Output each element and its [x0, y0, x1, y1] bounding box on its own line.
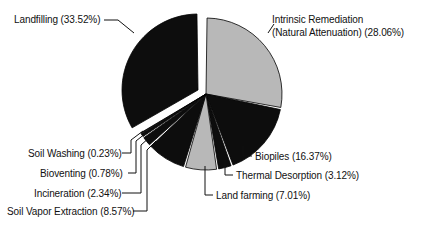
slice-label-bioventing-text: Bioventing (0.78%) — [40, 168, 123, 181]
slice-label-landfilling-text: Landfilling (33.52%) — [14, 14, 100, 27]
slice-label-soil-vapor-extraction: Soil Vapor Extraction (8.57%) — [7, 206, 135, 219]
leader-line-landfilling — [104, 20, 134, 33]
slice-label-landfilling: Landfilling (33.52%) — [14, 14, 100, 27]
pie-slice-intrinsic-remediation-natural-attenuation[interactable] — [206, 18, 282, 107]
slice-label-soil-washing-text: Soil Washing (0.23%) — [28, 148, 122, 161]
slice-label-land-farming: Land farming (7.01%) — [216, 190, 310, 203]
slice-label-intrinsic-remediation: Intrinsic Remediation (Natural Attenuati… — [272, 14, 404, 39]
slice-label-soil-vapor-extraction-text: Soil Vapor Extraction (8.57%) — [7, 206, 135, 219]
slice-label-bioventing: Bioventing (0.78%) — [40, 168, 123, 181]
slice-label-intrinsic-remediation-line1: Intrinsic Remediation — [272, 14, 404, 27]
pie-slices-group — [122, 14, 282, 170]
leader-line-soil-washing — [122, 131, 143, 153]
slice-label-incineration: Incineration (2.34%) — [34, 188, 122, 201]
slice-label-biopiles-text: Biopiles (16.37%) — [255, 151, 332, 164]
slice-label-biopiles: Biopiles (16.37%) — [255, 151, 332, 164]
slice-label-land-farming-text: Land farming (7.01%) — [216, 190, 310, 203]
slice-label-intrinsic-remediation-line2: (Natural Attenuation) (28.06%) — [272, 27, 404, 40]
pie-chart-figure: Landfilling (33.52%) Intrinsic Remediati… — [0, 0, 439, 226]
slice-label-thermal-desorption: Thermal Desorption (3.12%) — [236, 170, 359, 183]
slice-label-thermal-desorption-text: Thermal Desorption (3.12%) — [236, 170, 359, 183]
slice-label-incineration-text: Incineration (2.34%) — [34, 188, 122, 201]
slice-label-soil-washing: Soil Washing (0.23%) — [28, 148, 122, 161]
